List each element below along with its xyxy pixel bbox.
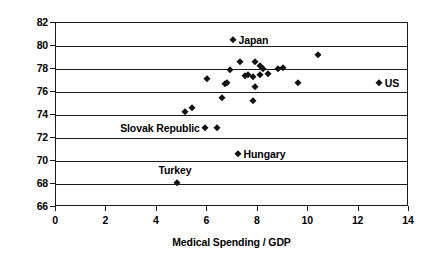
point-label: Japan	[239, 34, 269, 46]
scatter-chart: Life Expectancy at Birth 666870727476788…	[0, 0, 432, 262]
data-point	[214, 124, 222, 132]
gridline	[56, 92, 407, 93]
y-tick-label: 78	[22, 63, 48, 73]
point-label: Hungary	[244, 148, 286, 160]
y-tick-label: 68	[22, 178, 48, 188]
y-tick-label: 82	[22, 17, 48, 27]
x-tick-mark	[55, 206, 56, 211]
data-point	[229, 36, 237, 44]
data-point	[251, 84, 259, 92]
x-tick-mark	[206, 206, 207, 211]
point-label: Slovak Republic	[120, 122, 200, 134]
x-tick-mark	[257, 206, 258, 211]
x-tick-label: 12	[346, 214, 370, 226]
data-point	[219, 94, 227, 102]
data-point	[264, 70, 272, 78]
x-tick-mark	[105, 206, 106, 211]
gridline	[56, 46, 407, 47]
point-label: Turkey	[158, 164, 191, 176]
data-point	[188, 104, 196, 112]
gridline	[56, 138, 407, 139]
data-point	[249, 97, 257, 105]
y-tick-label: 76	[22, 86, 48, 96]
x-tick-mark	[156, 206, 157, 211]
y-tick-label: 74	[22, 109, 48, 119]
gridline	[56, 184, 407, 185]
y-tick-label: 72	[22, 132, 48, 142]
data-point	[173, 179, 181, 187]
x-tick-mark	[408, 206, 409, 211]
x-axis-title: Medical Spending / GDP	[55, 236, 408, 248]
data-point	[224, 79, 232, 87]
x-tick-mark	[358, 206, 359, 211]
data-point	[314, 51, 322, 59]
plot-area: JapanUSHungaryTurkeySlovak Republic	[55, 22, 408, 206]
x-tick-label: 4	[144, 214, 168, 226]
gridline	[56, 161, 407, 162]
data-point	[201, 124, 209, 132]
x-tick-label: 0	[43, 214, 67, 226]
y-tick-label: 80	[22, 40, 48, 50]
x-tick-label: 14	[396, 214, 420, 226]
data-point	[234, 150, 242, 158]
data-point	[226, 66, 234, 74]
x-tick-mark	[307, 206, 308, 211]
x-tick-label: 10	[295, 214, 319, 226]
point-label: US	[385, 77, 399, 89]
data-point	[236, 58, 244, 66]
y-tick-label: 66	[22, 201, 48, 211]
y-tick-label: 70	[22, 155, 48, 165]
x-tick-label: 6	[194, 214, 218, 226]
x-tick-label: 8	[245, 214, 269, 226]
gridline	[56, 115, 407, 116]
data-point	[375, 79, 383, 87]
data-point	[203, 76, 211, 84]
data-point	[294, 79, 302, 87]
x-tick-label: 2	[93, 214, 117, 226]
